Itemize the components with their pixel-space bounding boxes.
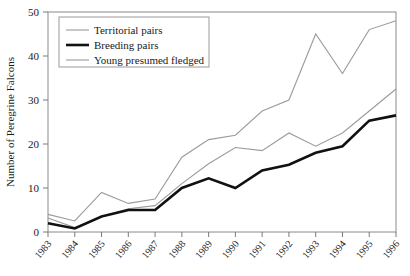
legend-label-young-presumed-fledged: Young presumed fledged <box>94 54 205 66</box>
y-tick-label: 10 <box>28 182 40 194</box>
x-axis: 1983198419851986198719881989199019911992… <box>32 232 401 261</box>
x-tick-label: 1992 <box>273 238 294 260</box>
x-tick-label: 1987 <box>139 238 160 260</box>
x-tick-label: 1994 <box>327 238 348 260</box>
y-tick-label: 40 <box>28 50 40 62</box>
peregrine-falcon-line-chart: 01020304050 1983198419851986198719881989… <box>0 0 410 276</box>
x-tick-label: 1983 <box>32 238 53 260</box>
y-tick-label: 50 <box>28 6 40 18</box>
x-tick-label: 1986 <box>113 238 134 260</box>
chart-legend: Territorial pairsBreeding pairsYoung pre… <box>59 17 209 67</box>
y-axis-title-text: Number of Peregrine Falcons <box>4 57 16 187</box>
legend-label-breeding-pairs: Breeding pairs <box>94 39 158 51</box>
x-tick-label: 1995 <box>353 238 374 260</box>
x-tick-label: 1984 <box>59 238 80 260</box>
legend-label-territorial-pairs: Territorial pairs <box>94 24 163 36</box>
x-tick-label: 1991 <box>246 238 267 260</box>
x-tick-label: 1990 <box>220 238 241 260</box>
y-axis: 01020304050 <box>28 6 48 238</box>
x-tick-label: 1996 <box>380 238 401 260</box>
chart-canvas: 01020304050 1983198419851986198719881989… <box>0 0 410 276</box>
y-tick-label: 20 <box>28 138 40 150</box>
x-tick-label: 1988 <box>166 238 187 260</box>
x-tick-label: 1989 <box>193 238 214 260</box>
y-tick-label: 0 <box>34 226 40 238</box>
y-axis-title: Number of Peregrine Falcons <box>4 57 16 187</box>
x-tick-label: 1993 <box>300 238 321 260</box>
x-tick-label: 1985 <box>86 238 107 260</box>
y-tick-label: 30 <box>28 94 40 106</box>
